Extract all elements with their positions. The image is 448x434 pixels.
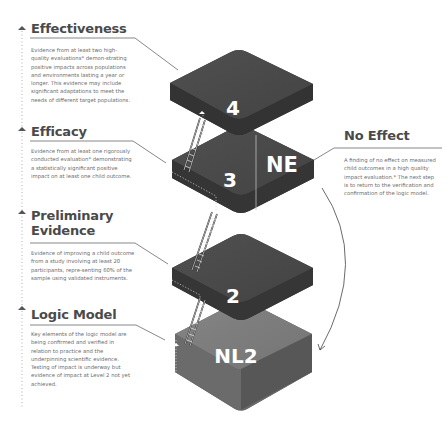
up-arrow-icon: [18, 26, 26, 30]
block-3-label: 3: [223, 168, 237, 192]
block-nl2-label: NL2: [214, 344, 257, 368]
desc-efficacy: Evidence from at least one rigorously co…: [31, 147, 135, 180]
desc-preliminary-evidence: Evidence of improving a child outcome fr…: [31, 249, 135, 282]
up-arrow-icon: [18, 127, 26, 131]
desc-no-effect: A finding of no effect on measured child…: [344, 156, 440, 197]
block-2: 2: [172, 234, 313, 320]
block-2-label: 2: [226, 284, 240, 308]
curved-arrow-icon: [318, 188, 346, 350]
heading-preliminary-evidence: Preliminary Evidence: [31, 208, 121, 238]
desc-logic-model: Key elements of the logic model are bein…: [31, 330, 135, 388]
heading-efficacy: Efficacy: [31, 124, 87, 139]
block-ne-label: NE: [266, 153, 298, 177]
up-arrow-icon: [18, 210, 26, 214]
left-guide: [18, 26, 26, 409]
heading-logic-model: Logic Model: [31, 307, 116, 322]
evidence-levels-diagram: NL2 2 3 NE 4: [0, 0, 448, 434]
block-4-label: 4: [226, 96, 240, 120]
heading-no-effect: No Effect: [344, 128, 409, 143]
block-4: 4: [170, 50, 313, 135]
heading-effectiveness: Effectiveness: [31, 21, 127, 36]
up-arrow-icon: [18, 306, 26, 310]
desc-effectiveness: Evidence from at least two high-quality …: [31, 46, 135, 104]
